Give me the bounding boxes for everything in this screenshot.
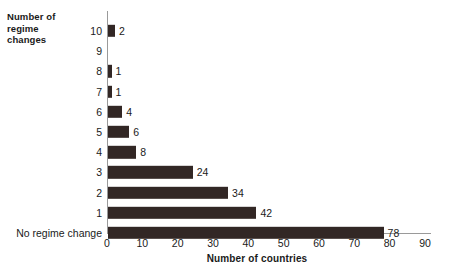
x-tick-label: 90 [419,237,431,249]
category-label: 3 [96,166,102,178]
bar-value-label: 1 [116,86,122,98]
x-tick-label: 50 [278,237,290,249]
x-tick-label: 60 [313,237,325,249]
x-tick-label: 30 [207,237,219,249]
bar [108,65,112,77]
bar-row: 56 [107,122,431,142]
bar-value-label: 6 [133,126,139,138]
x-axis-title-text: Number of countries [207,253,308,264]
x-tick-label: 80 [384,237,396,249]
bar [108,166,193,178]
x-tick-label: 20 [172,237,184,249]
bar [108,186,228,198]
bar-value-label: 1 [116,65,122,77]
bar [108,106,122,118]
bar-row: 71 [107,82,431,102]
bar-chart: Number of regime changes 102981716456483… [0,0,452,277]
bar-value-label: 42 [260,207,272,219]
x-tick-label: 70 [348,237,360,249]
bar-row: No regime change78 [107,223,431,243]
bar-value-label: 2 [119,25,125,37]
bar-value-label: 24 [197,166,209,178]
bar-row: 9 [107,41,431,61]
bar-value-label: 8 [140,146,146,158]
bar-row: 102 [107,21,431,41]
bar-row: 142 [107,203,431,223]
x-tick-label: 10 [136,237,148,249]
bar-row: 64 [107,102,431,122]
bar-value-label: 34 [232,187,244,199]
bar [108,146,136,158]
bar [108,85,112,97]
category-label: No regime change [16,227,102,239]
category-label: 9 [96,45,102,57]
bar-row: 48 [107,142,431,162]
bar-row: 324 [107,162,431,182]
category-label: 5 [96,126,102,138]
bar-row: 234 [107,183,431,203]
category-label: 7 [96,86,102,98]
bar-value-label: 4 [126,106,132,118]
bar-row: 81 [107,61,431,81]
x-tick-label: 40 [242,237,254,249]
y-axis-title: Number of regime changes [7,11,99,46]
x-axis-title: Number of countries [0,253,452,264]
bar [108,207,256,219]
category-label: 6 [96,106,102,118]
category-label: 8 [96,65,102,77]
bar [108,25,115,37]
category-label: 10 [90,25,102,37]
category-label: 1 [96,207,102,219]
bar [108,126,129,138]
x-tick-label: 0 [104,237,110,249]
category-label: 4 [96,146,102,158]
category-label: 2 [96,187,102,199]
plot-area: 10298171645648324234142No regime change7… [107,11,431,234]
